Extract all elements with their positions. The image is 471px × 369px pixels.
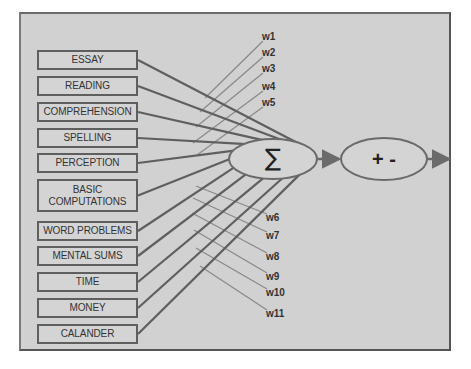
input-node-essay: ESSAY [37,50,138,70]
input-node-perception: PERCEPTION [37,153,138,173]
weight-line [205,41,263,98]
input-node-mental-sums: MENTAL SUMS [37,246,138,266]
input-connection [138,178,283,309]
weight-label-w5: w5 [262,97,275,108]
weight-label-w4: w4 [262,81,275,92]
weight-label-w9: w9 [266,271,279,282]
weight-label-w1: w1 [262,31,275,42]
input-node-basic-computations: BASIC COMPUTATIONS [37,179,138,212]
input-connection [138,159,230,196]
weight-label-w3: w3 [262,63,275,74]
weight-line [196,248,267,289]
weight-line [193,91,263,143]
input-connection [138,86,283,141]
input-node-spelling: SPELLING [37,128,138,148]
input-connection [138,138,246,144]
input-node-time: TIME [37,272,138,292]
input-connection [138,151,234,163]
weight-label-w7: w7 [266,230,279,241]
input-connection [138,60,301,144]
summation-symbol: ∑ [253,143,293,173]
input-node-calander: CALANDER [37,324,138,344]
input-node-reading: READING [37,76,138,96]
input-node-word-problems: WORD PROBLEMS [37,221,138,241]
weight-label-w10: w10 [266,287,285,298]
neural-network-diagram: ESSAYREADINGCOMPREHENSIONSPELLINGPERCEPT… [0,0,471,369]
weight-label-w6: w6 [266,212,279,223]
input-node-money: MONEY [37,298,138,318]
weight-label-w2: w2 [262,47,275,58]
weight-line [200,57,263,112]
input-node-comprehension: COMPREHENSION [37,102,138,122]
weight-line [196,186,267,214]
threshold-symbol: + - [354,146,414,172]
weight-line [200,266,267,310]
weight-label-w8: w8 [266,251,279,262]
weight-label-w11: w11 [266,308,284,319]
